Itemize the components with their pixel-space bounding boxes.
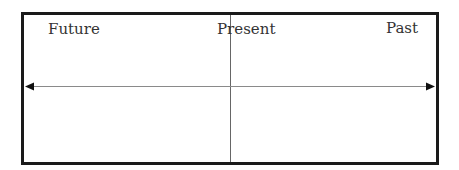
past-label: Past [386, 19, 418, 37]
arrowhead-right-icon [426, 83, 435, 91]
arrowhead-left-icon [25, 83, 34, 91]
future-label: Future [48, 20, 100, 38]
present-label: Present [217, 20, 275, 38]
